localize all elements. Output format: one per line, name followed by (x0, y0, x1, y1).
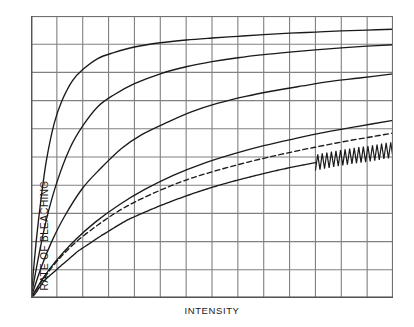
x-axis-label: INTENSITY (31, 305, 393, 316)
data-curve (31, 163, 315, 298)
data-curve-noise (315, 142, 393, 170)
chart-figure: RATE OF BLEACHING INTENSITY (0, 0, 414, 327)
chart-svg (31, 16, 393, 298)
grid-lines (31, 16, 393, 298)
plot-area (31, 16, 393, 298)
